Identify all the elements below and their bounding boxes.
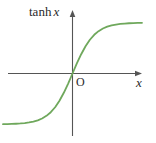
plot-canvas	[0, 0, 156, 143]
y-axis-arrowhead	[70, 10, 76, 17]
tanh-plot-figure: tanhx x O	[0, 0, 156, 143]
y-axis-label: tanhx	[29, 5, 59, 18]
y-axis-label-variable: x	[51, 4, 59, 19]
origin-label: O	[76, 76, 85, 88]
x-axis-label: x	[136, 76, 142, 89]
y-axis-label-prefix: tanh	[29, 4, 51, 19]
